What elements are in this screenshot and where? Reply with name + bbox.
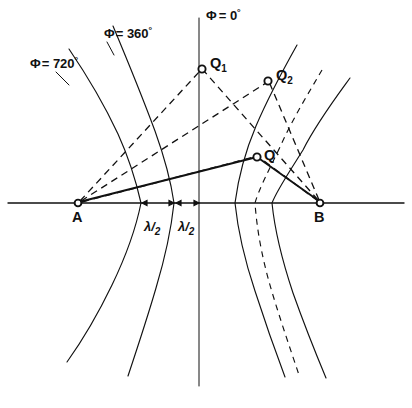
leader-line-phi360 bbox=[107, 42, 114, 55]
label-point-B: B bbox=[314, 209, 324, 225]
phi-degree-720: ° bbox=[75, 55, 79, 65]
phi-degree-0: ° bbox=[237, 7, 241, 17]
hyperbola-phase-diagram: Φ= 720° Φ= 360° Φ= 0° λ/2 λ/2 A B bbox=[0, 0, 412, 408]
label-phi-720: Φ= 720° bbox=[30, 55, 79, 71]
marker-point-A bbox=[75, 200, 82, 207]
label-point-Q2-base: Q bbox=[276, 67, 287, 83]
phi-degree-360: ° bbox=[149, 25, 153, 35]
lambda-symbol-left: λ bbox=[143, 219, 151, 234]
contour-phi360 bbox=[113, 26, 174, 376]
label-lambda-half-left: λ/2 bbox=[143, 219, 161, 237]
label-point-Q: Q bbox=[264, 147, 275, 163]
contour-right-2 bbox=[272, 78, 350, 378]
phi-symbol-720: Φ bbox=[30, 56, 41, 71]
contour-group bbox=[67, 18, 350, 386]
label-phi-360: Φ= 360° bbox=[104, 25, 153, 41]
spacing-arrow-left-start bbox=[142, 200, 147, 205]
contour-dashed bbox=[255, 70, 322, 375]
marker-point-Q2 bbox=[264, 77, 271, 84]
label-point-Q1-sub: 1 bbox=[221, 63, 227, 74]
figure-root: Φ= 720° Φ= 360° Φ= 0° λ/2 λ/2 A B bbox=[0, 0, 412, 408]
label-lambda-half-right: λ/2 bbox=[177, 219, 195, 237]
spacing-arrow-right-start bbox=[176, 200, 181, 205]
lambda-denominator-left: 2 bbox=[154, 226, 161, 237]
marker-point-Q1 bbox=[198, 65, 205, 72]
marker-point-Q bbox=[253, 153, 260, 160]
range-line-B-Q1 bbox=[204, 71, 318, 200]
phi-symbol-0: Φ bbox=[206, 8, 217, 23]
label-point-Q1-base: Q bbox=[210, 55, 221, 71]
spacing-arrow-right-end bbox=[194, 200, 199, 205]
phi-text-360: = 360 bbox=[116, 26, 149, 41]
contour-right-1 bbox=[235, 45, 297, 377]
marker-point-B bbox=[317, 200, 324, 207]
lambda-symbol-right: λ bbox=[177, 219, 185, 234]
label-point-Q1: Q1 bbox=[210, 55, 227, 74]
label-phi-0: Φ= 0° bbox=[206, 7, 241, 23]
lambda-denominator-right: 2 bbox=[188, 226, 195, 237]
phi-text-720: = 720 bbox=[42, 56, 75, 71]
leader-line-phi720 bbox=[56, 72, 69, 85]
label-point-Q2-sub: 2 bbox=[287, 75, 293, 86]
phi-symbol-360: Φ bbox=[104, 26, 115, 41]
label-point-Q2: Q2 bbox=[276, 67, 293, 86]
label-point-A: A bbox=[72, 209, 83, 225]
phi-text-0: = 0 bbox=[219, 8, 237, 23]
